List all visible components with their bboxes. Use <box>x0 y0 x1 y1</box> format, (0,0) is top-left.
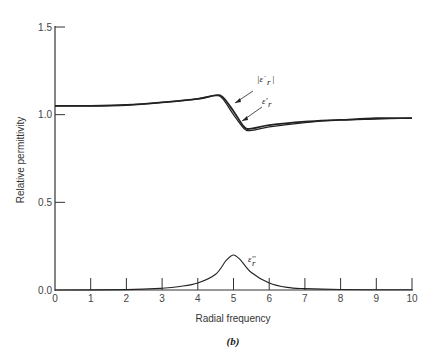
x-tick-label: 9 <box>374 293 380 304</box>
figure-caption: (b) <box>227 335 240 348</box>
x-tick-label: 7 <box>302 293 308 304</box>
x-tick-label: 2 <box>124 293 130 304</box>
series-line <box>55 95 412 129</box>
y-tick-label: 1.5 <box>38 22 52 33</box>
svg-text:r: r <box>268 99 272 109</box>
x-tick-label: 1 <box>88 293 94 304</box>
annotation-imag: ε'' r <box>248 254 256 268</box>
series-line <box>55 95 412 130</box>
permittivity-chart: 0.00.51.01.5 012345678910 |ε̇ r | ε' r ε… <box>0 0 438 356</box>
x-tick-label: 5 <box>231 293 237 304</box>
x-tick-label: 10 <box>406 293 418 304</box>
y-ticks: 0.00.51.01.5 <box>38 22 65 296</box>
axes <box>55 26 413 291</box>
y-tick-label: 0.5 <box>38 197 52 208</box>
x-tick-label: 0 <box>52 293 58 304</box>
label-mag: |ε̇ <box>257 74 266 84</box>
x-ticks: 012345678910 <box>52 278 418 304</box>
x-tick-label: 3 <box>159 293 165 304</box>
y-tick-label: 0.0 <box>38 285 52 296</box>
svg-text:|: | <box>272 74 274 84</box>
y-axis-label: Relative permittivity <box>15 117 26 204</box>
x-axis-label: Radial frequency <box>195 313 270 324</box>
curves <box>55 95 412 290</box>
x-tick-label: 4 <box>195 293 201 304</box>
x-tick-label: 8 <box>338 293 344 304</box>
svg-text:r: r <box>267 77 271 87</box>
annotation-real: ε' r <box>242 96 272 121</box>
x-tick-label: 6 <box>266 293 272 304</box>
svg-text:r: r <box>252 258 256 268</box>
y-tick-label: 1.0 <box>38 109 52 120</box>
